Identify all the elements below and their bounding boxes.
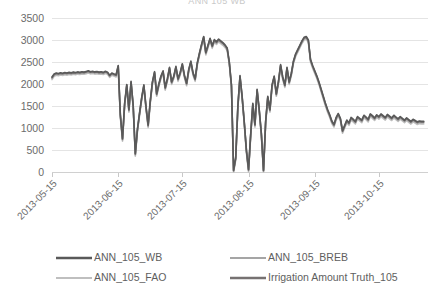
gridlines-group: [52, 19, 428, 173]
chart-container: ANN 105 WB 0500100015002000250030003500 …: [0, 0, 434, 292]
x-axis-tick-labels: 2013-05-152013-06-152013-07-152013-08-15…: [15, 177, 386, 221]
x-axis-tick-label: 2013-07-15: [145, 177, 189, 221]
legend-label: Irrigation Amount Truth_105: [268, 271, 398, 283]
x-axis-tick-label: 2013-08-15: [212, 177, 256, 221]
x-axis-tick-label: 2013-10-15: [342, 177, 386, 221]
y-axis-tick-labels: 0500100015002000250030003500: [21, 12, 45, 178]
y-axis-tick-label: 2500: [21, 56, 45, 68]
y-axis-tick-label: 0: [38, 166, 44, 178]
chart-legend: ANN_105_WBANN_105_BREBANN_105_FAOIrrigat…: [56, 251, 398, 283]
y-axis-tick-label: 1000: [21, 122, 45, 134]
y-axis-tick-label: 500: [26, 144, 44, 156]
legend-label: ANN_105_WB: [94, 251, 162, 263]
y-axis-tick-label: 1500: [21, 100, 45, 112]
y-axis-tick-label: 3500: [21, 12, 45, 24]
y-axis-tick-label: 2000: [21, 78, 45, 90]
legend-label: ANN_105_BREB: [268, 251, 348, 263]
legend-label: ANN_105_FAO: [94, 271, 166, 283]
y-axis-tick-label: 3000: [21, 34, 45, 46]
x-axis-tick-label: 2013-09-15: [278, 177, 322, 221]
x-axis-tick-label: 2013-06-15: [81, 177, 125, 221]
series-group: [52, 36, 424, 172]
line-chart: 0500100015002000250030003500 2013-05-152…: [0, 0, 434, 292]
x-axis-tick-label: 2013-05-15: [15, 177, 59, 221]
